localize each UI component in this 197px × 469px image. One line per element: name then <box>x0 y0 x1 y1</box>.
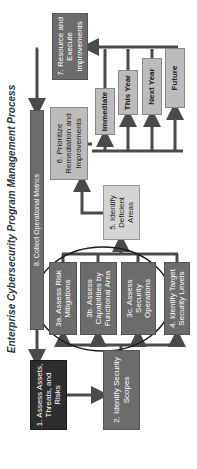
step-6-box: 6. Prioritize Remediation and Improvemen… <box>50 107 88 180</box>
step-3b-box: 3b. Assess Capabilities by Functional Ar… <box>80 262 117 335</box>
step-1-box: 1. Assess Assets, Threats, and Risks <box>30 360 67 430</box>
priority-immediate: Immediate <box>95 88 115 135</box>
step-3c-box: 3c. Assess Security Operations <box>121 262 156 335</box>
step-5-box: 5. Identify Deficient Areas <box>103 185 140 240</box>
step-2-box: 2. Identify Security Scopes <box>103 350 140 430</box>
priority-next-year: Next Year <box>142 58 162 115</box>
priority-this-year: This Year <box>118 70 138 115</box>
step-7-box: 7. Resource and Execute Improvements <box>52 13 88 80</box>
step-8-box: 8. Collect Operational Metrics <box>30 110 44 330</box>
priority-future: Future <box>165 48 185 108</box>
step-4-box: 4. Identify Target Security Levels <box>164 262 190 335</box>
step-3a-box: 3a. Assess Risk Mitigations <box>49 262 77 335</box>
process-diagram: Enterprise Cybersecurity Program Managem… <box>0 0 197 469</box>
